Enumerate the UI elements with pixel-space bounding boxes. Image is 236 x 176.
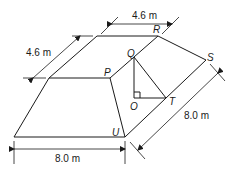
top-length-label: 4.6 m: [132, 10, 157, 21]
frustum-diagram: 4.6 m 4.6 m 8.0 m 8.0 m P Q R S T O U: [0, 0, 236, 176]
point-label-p: P: [104, 67, 111, 78]
base-length-label: 8.0 m: [55, 153, 80, 164]
point-label-s: S: [207, 52, 214, 63]
point-label-r: R: [153, 24, 160, 35]
right-face: [125, 36, 206, 137]
dimension-top-width: 4.6 m: [23, 36, 93, 78]
dimension-base-length: 8.0 m: [14, 141, 125, 164]
triangle-qot: [134, 57, 166, 98]
right-angle-marker: [134, 92, 140, 98]
dimension-top-length: 4.6 m: [101, 10, 179, 34]
point-label-o: O: [130, 101, 138, 112]
base-width-label: 8.0 m: [184, 110, 209, 121]
top-width-label: 4.6 m: [26, 47, 51, 58]
point-label-q: Q: [127, 48, 135, 59]
point-label-u: U: [112, 127, 120, 138]
point-label-t: T: [169, 96, 176, 107]
dimension-base-width: 8.0 m: [130, 64, 225, 159]
front-face: [14, 78, 125, 137]
